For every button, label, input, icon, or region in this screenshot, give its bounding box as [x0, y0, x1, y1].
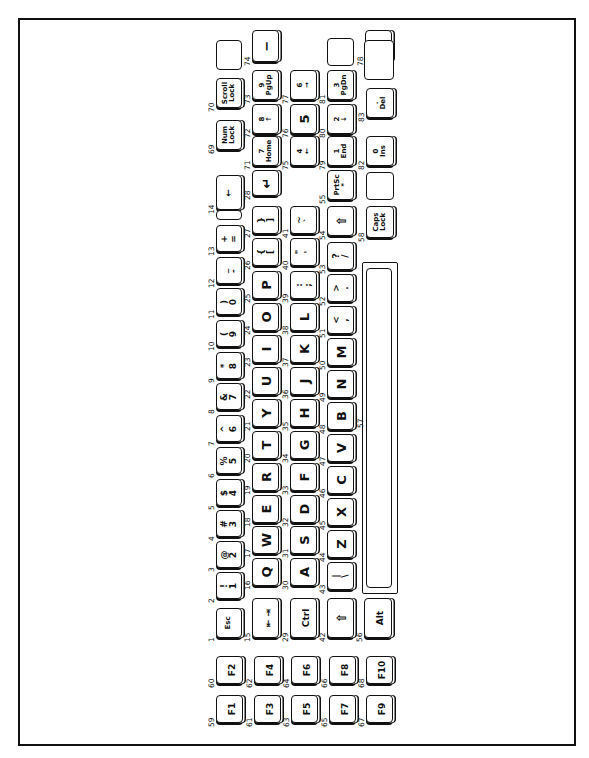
key-20[interactable]: T	[252, 431, 279, 459]
key-legend: −	[258, 41, 273, 52]
blank-key[interactable]	[366, 172, 394, 200]
key-4[interactable]: #3	[216, 510, 242, 537]
blank-key[interactable]	[364, 40, 394, 80]
key-35[interactable]: H	[290, 399, 317, 427]
key-45[interactable]: X	[327, 498, 354, 526]
key-18[interactable]: E	[252, 495, 279, 523]
key-71[interactable]: 7Home	[252, 136, 279, 166]
key-43[interactable]: |\	[327, 562, 354, 590]
key-40[interactable]: "'	[290, 238, 317, 266]
key-46[interactable]: C	[327, 466, 354, 494]
key-58[interactable]: CapsLock	[366, 206, 394, 238]
blank-key[interactable]	[327, 38, 354, 66]
key-23[interactable]: I	[252, 335, 279, 363]
key-53[interactable]: ?/	[327, 242, 354, 270]
key-34[interactable]: G	[290, 431, 317, 459]
key-24[interactable]: O	[252, 303, 279, 331]
key-67[interactable]: F9	[366, 695, 393, 723]
key-22[interactable]: U	[252, 367, 279, 395]
key-6[interactable]: %5	[216, 447, 242, 474]
key-13[interactable]: +=	[216, 225, 242, 252]
key-51[interactable]: <,	[327, 306, 354, 334]
key-81[interactable]: 3PgDn	[327, 70, 354, 100]
key-82[interactable]: 0Ins	[366, 136, 394, 166]
key-76[interactable]: 5	[290, 104, 317, 134]
key-29[interactable]: Ctrl	[290, 598, 317, 638]
scan-code: 27	[243, 228, 252, 238]
key-17[interactable]: W	[252, 526, 279, 554]
key-80[interactable]: 2↓	[327, 104, 354, 134]
key-legend: U	[258, 376, 273, 387]
key-21[interactable]: Y	[252, 399, 279, 427]
key-26[interactable]: {[	[252, 238, 279, 266]
key-77[interactable]: 6→	[290, 70, 317, 100]
key-47[interactable]: V	[327, 434, 354, 462]
key-label: ?/	[331, 253, 350, 258]
key-60[interactable]: F2	[216, 656, 243, 684]
key-37[interactable]: K	[290, 335, 317, 363]
key-39[interactable]: :;	[290, 271, 317, 299]
key-15[interactable]: ⇤ ⇥	[252, 598, 279, 638]
key-79[interactable]: 1End	[327, 136, 354, 166]
key-legend-bottom: =	[229, 235, 238, 243]
key-70[interactable]: ScrollLock	[216, 78, 242, 108]
key-14[interactable]: ←	[216, 175, 242, 210]
key-19[interactable]: R	[252, 463, 279, 491]
key-10[interactable]: (9	[216, 320, 242, 347]
key-16[interactable]: Q	[252, 558, 279, 586]
key-62[interactable]: F4	[254, 656, 281, 684]
blank-key[interactable]	[216, 210, 242, 220]
key-31[interactable]: S	[290, 526, 317, 554]
key-72[interactable]: 8↑	[252, 104, 279, 134]
key-44[interactable]: Z	[327, 530, 354, 558]
key-label: &7	[220, 393, 239, 401]
key-28[interactable]: ↵	[252, 170, 279, 196]
scan-code: 24	[243, 325, 252, 335]
scan-code: 80	[318, 128, 327, 138]
key-41[interactable]: ~`	[290, 206, 317, 234]
key-7[interactable]: ^6	[216, 415, 242, 442]
key-label: F9	[371, 703, 388, 715]
scan-code: 10	[207, 341, 216, 351]
key-50[interactable]: M	[327, 338, 354, 366]
key-32[interactable]: D	[290, 495, 317, 523]
key-83[interactable]: .Del	[366, 88, 394, 118]
key-36[interactable]: J	[290, 367, 317, 395]
key-27[interactable]: }]	[252, 206, 279, 234]
key-66[interactable]: F8	[329, 656, 356, 684]
key-8[interactable]: &7	[216, 383, 242, 410]
key-25[interactable]: P	[252, 271, 279, 299]
scan-code: 11	[207, 309, 216, 319]
scan-code: 28	[243, 190, 252, 200]
key-73[interactable]: 9PgUp	[252, 70, 279, 100]
key-38[interactable]: L	[290, 303, 317, 331]
key-3[interactable]: @2	[216, 541, 242, 568]
key-48[interactable]: B	[327, 402, 354, 430]
key-64[interactable]: F6	[291, 656, 318, 684]
key-75[interactable]: 4←	[290, 136, 317, 166]
key-54[interactable]: ⇧	[327, 206, 354, 236]
key-label: #3	[220, 520, 239, 528]
key-12[interactable]: _-	[216, 257, 242, 284]
key-30[interactable]: A	[290, 558, 317, 586]
key-61[interactable]: F3	[254, 695, 281, 723]
key-11[interactable]: )0	[216, 288, 242, 315]
key-65[interactable]: F7	[329, 695, 356, 723]
key-56[interactable]: Alt	[364, 598, 392, 638]
key-5[interactable]: $4	[216, 479, 242, 506]
key-legend-bottom: Lock	[229, 82, 236, 104]
key-42[interactable]: ⇧	[327, 598, 354, 638]
key-74[interactable]: −	[252, 30, 279, 62]
key-52[interactable]: >.	[327, 274, 354, 302]
key-49[interactable]: N	[327, 370, 354, 398]
key-69[interactable]: NumLock	[216, 120, 242, 150]
key-33[interactable]: F	[290, 463, 317, 491]
blank-key[interactable]	[216, 40, 242, 70]
key-59[interactable]: F1	[216, 695, 243, 723]
key-2[interactable]: !1	[216, 572, 242, 599]
key-1[interactable]: Esc	[216, 608, 242, 638]
key-63[interactable]: F5	[291, 695, 318, 723]
key-9[interactable]: *8	[216, 352, 242, 379]
key-68[interactable]: F10	[366, 656, 393, 684]
key-55[interactable]: PrtSc*	[327, 170, 354, 200]
